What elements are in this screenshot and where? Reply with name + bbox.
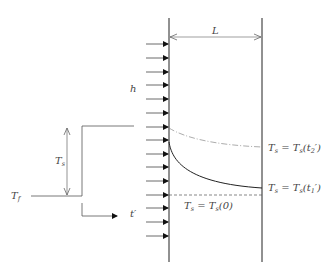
c0-eq: = T bbox=[278, 142, 299, 153]
label-Ts-main: T bbox=[55, 155, 62, 166]
label-Ts-sub: s bbox=[62, 160, 65, 168]
c1-close: ′) bbox=[315, 182, 321, 193]
label-h: h bbox=[130, 83, 136, 94]
c0-close: ′) bbox=[315, 142, 321, 153]
c2-main: T bbox=[184, 200, 191, 211]
c1-eq: = T bbox=[278, 182, 299, 193]
time-axis-arrow bbox=[82, 203, 117, 216]
curve-label-t2: Ts = Ts(t2′) bbox=[268, 143, 321, 155]
label-L: L bbox=[212, 25, 219, 36]
heat-conduction-diagram bbox=[0, 0, 322, 273]
step-magnitude-label: Ts bbox=[55, 156, 65, 168]
label-Tf-sub: f bbox=[18, 195, 20, 203]
profile-t1-solid bbox=[169, 142, 262, 188]
slab-width-label: L bbox=[212, 26, 219, 36]
c1-main: T bbox=[268, 182, 275, 193]
convection-arrows bbox=[146, 44, 168, 236]
step-input-line bbox=[31, 126, 134, 196]
c2-arg: (0) bbox=[219, 200, 233, 211]
curve-label-initial: Ts = Ts(0) bbox=[184, 201, 233, 213]
curve-label-t1: Ts = Ts(t1′) bbox=[268, 183, 321, 195]
c1-arg: (t bbox=[303, 182, 311, 193]
c0-arg: (t bbox=[303, 142, 311, 153]
label-Tf-main: T bbox=[11, 190, 18, 201]
time-label: t′ bbox=[130, 209, 136, 219]
initial-temperature-label: Tf bbox=[11, 191, 20, 203]
convection-coefficient-label: h bbox=[130, 84, 136, 94]
label-t-prime: t′ bbox=[130, 208, 136, 219]
c0-main: T bbox=[268, 142, 275, 153]
c2-eq: = T bbox=[194, 200, 215, 211]
profile-t2-dashdot bbox=[169, 128, 262, 147]
